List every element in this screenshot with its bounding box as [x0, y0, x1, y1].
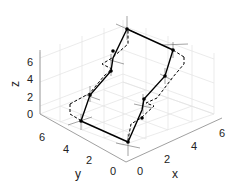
marker-dot — [140, 116, 144, 120]
x-tick-label: 4 — [191, 140, 197, 152]
solid-top-edge — [127, 29, 173, 50]
x-tick-label: 6 — [219, 127, 225, 139]
marker-dot — [111, 49, 115, 53]
3d-line-plot: 6 4 2 0 z 6 4 2 0 y 0 2 4 6 x — [0, 0, 237, 189]
marker-dot — [109, 69, 113, 73]
x-axis-label: x — [172, 167, 178, 181]
y-tick-label: 0 — [110, 165, 116, 177]
marker-dot — [125, 27, 129, 31]
z-tick-label: 0 — [27, 108, 33, 120]
marker-dot — [142, 97, 146, 101]
marker-dot — [171, 48, 175, 52]
z-tick-labels: 6 4 2 0 — [27, 56, 33, 120]
x-tick-label: 2 — [164, 153, 170, 165]
x-tick-labels: 0 2 4 6 — [137, 127, 225, 177]
dashed-right-curve — [128, 57, 184, 140]
z-tick-label: 4 — [27, 73, 33, 85]
y-tick-label: 4 — [63, 143, 69, 155]
y-tick-label: 2 — [86, 154, 92, 166]
z-tick-label: 2 — [27, 91, 33, 103]
x-tick-label: 0 — [137, 165, 143, 177]
marker-dot — [79, 119, 83, 123]
y-axis-label: y — [75, 167, 81, 181]
solid-right-curve — [128, 50, 173, 142]
marker-dot — [163, 74, 167, 78]
dashed-right-top — [173, 50, 184, 57]
y-tick-label: 6 — [39, 131, 45, 143]
marker-dot — [126, 140, 130, 144]
z-axis-label: z — [8, 81, 22, 87]
marker-dot — [88, 93, 92, 97]
z-tick-label: 6 — [27, 56, 33, 68]
